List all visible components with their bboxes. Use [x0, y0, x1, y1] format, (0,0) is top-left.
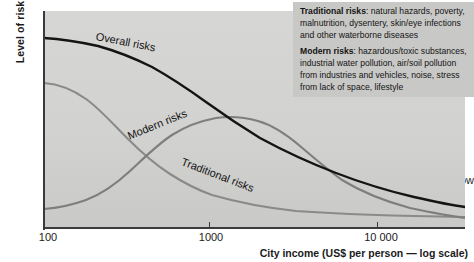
legend-term-modern: Modern risks — [300, 46, 354, 56]
y-axis-line — [43, 11, 45, 230]
x-axis-title: City income (US$ per person — log scale) — [260, 247, 468, 259]
x-tick-mark-1000 — [209, 222, 210, 228]
risk-transition-chart: Level of risk High Low Overall risks Mod… — [0, 0, 474, 262]
legend-term-traditional: Traditional risks — [300, 6, 366, 16]
legend-entry-modern: Modern risks: hazardous/toxic substances… — [300, 46, 469, 93]
x-axis-line — [43, 227, 465, 229]
x-tick-mark-10000 — [377, 222, 378, 228]
x-tick-mark-100 — [44, 222, 45, 228]
traditional-risks-curve — [44, 83, 465, 217]
modern-risks-curve — [44, 117, 465, 218]
y-axis-title: Level of risk — [14, 0, 26, 80]
x-tick-label-1000: 1000 — [199, 231, 223, 243]
legend-box: Traditional risks: natural hazards, pove… — [293, 2, 474, 97]
legend-entry-traditional: Traditional risks: natural hazards, pove… — [300, 6, 469, 41]
x-tick-label-100: 100 — [39, 231, 57, 243]
x-tick-label-10000: 10 000 — [364, 231, 398, 243]
